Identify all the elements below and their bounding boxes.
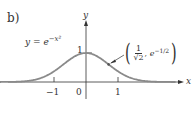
annotation-exponent: −1/2 [154, 47, 169, 54]
panel-label: b) [7, 12, 19, 24]
annotated-point [107, 63, 110, 66]
annotation-arrowhead-icon [110, 60, 116, 64]
tick-label-y1: 1 [77, 46, 83, 55]
plot-canvas [0, 0, 192, 137]
eq-sign: = [33, 37, 41, 47]
equation-label: y = e−x² [25, 36, 61, 47]
paren-right: ) [171, 41, 177, 65]
fraction: 1 √2 [133, 45, 143, 62]
fraction-denominator: √2 [133, 54, 143, 62]
tick-label-pos1: 1 [115, 88, 121, 97]
x-axis-arrow-icon [178, 80, 184, 84]
eq-exponent: −x² [49, 35, 62, 43]
point-annotation: ( 1 √2 , e−1/2 ) [123, 40, 178, 66]
tick-label-neg1: −1 [46, 88, 59, 97]
y-axis-label: y [83, 11, 88, 20]
tick-label-zero: 0 [76, 88, 82, 97]
y-axis-arrow-icon [84, 20, 88, 26]
paren-left: ( [125, 41, 131, 65]
x-axis-label: x [186, 77, 191, 86]
eq-lhs: y [25, 37, 30, 47]
